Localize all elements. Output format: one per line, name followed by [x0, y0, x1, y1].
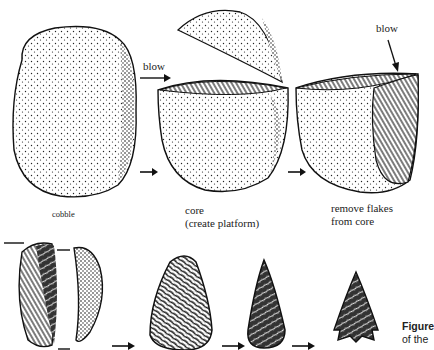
notched-point-illustration [334, 272, 378, 342]
flake-blanks-illustration [4, 243, 102, 349]
core-cap-illustration [178, 10, 282, 82]
arrow-point-to-notched [292, 342, 315, 350]
figure-caption-line1: Figure [402, 319, 434, 333]
arrow-biface-to-point [222, 342, 245, 350]
figure-caption-line2: of the [402, 332, 428, 346]
remove-flakes-label-line1: remove flakes [331, 202, 393, 215]
blow-arrow-right [388, 40, 399, 72]
flaked-core-illustration [296, 73, 418, 193]
core-label-line2: (create platform) [185, 217, 259, 230]
remove-flakes-label-line2: from core [331, 215, 374, 228]
biface-preform-illustration [150, 256, 212, 350]
core-illustration [158, 80, 288, 191]
refined-point-illustration [248, 260, 285, 348]
cobble-label: cobble [52, 208, 75, 221]
cobble-illustration [13, 27, 136, 197]
blow-arrow-left [140, 74, 171, 82]
core-label-line1: core [185, 204, 204, 217]
blow-label-right: blow [376, 22, 398, 35]
arrow-flake-to-biface [112, 342, 135, 350]
blow-label-left: blow [143, 60, 165, 73]
